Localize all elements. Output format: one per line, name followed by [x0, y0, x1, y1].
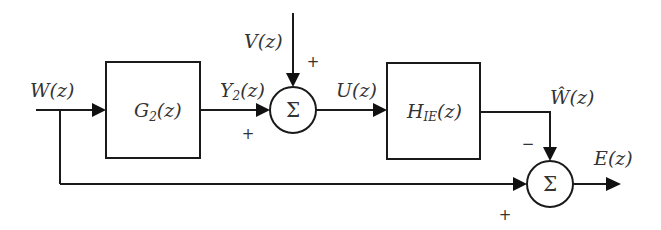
- arrowhead-into-sum2-top: [543, 147, 557, 161]
- signal-label-v: V(z): [244, 30, 283, 52]
- arrowhead-into-sum1-left: [256, 103, 270, 117]
- sign-sum1-v: +: [307, 53, 320, 71]
- sum1-sigma: Σ: [286, 98, 300, 122]
- sign-sum1-y2: +: [242, 125, 255, 143]
- arrowhead-output-e: [606, 177, 621, 191]
- arrowhead-into-sum1-top: [286, 73, 300, 87]
- sign-sum2-w: +: [499, 206, 512, 224]
- sum2-sigma: Σ: [543, 172, 557, 196]
- signal-label-w: W(z): [30, 79, 74, 101]
- signal-label-y2: Y2(z): [220, 79, 265, 103]
- block-g2-label: G2(z): [134, 99, 182, 124]
- signal-label-u: U(z): [336, 79, 377, 101]
- block-diagram: G2(z) Σ HIE(z) Σ W(z) V(z) Y2(z) U(z) Ŵ(…: [0, 0, 661, 230]
- sign-sum2-what: −: [522, 135, 535, 153]
- arrowhead-into-sum2-left: [513, 177, 527, 191]
- signal-label-w-hat: Ŵ(z): [550, 86, 594, 108]
- signal-label-e: E(z): [593, 147, 633, 169]
- arrowhead-into-g2: [92, 103, 106, 117]
- arrowhead-into-hie: [373, 103, 387, 117]
